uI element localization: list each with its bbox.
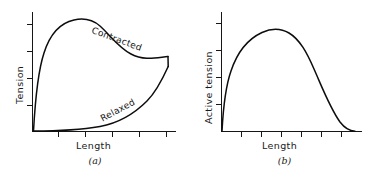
figure-root: Tension Length (a) Contracted Relaxed	[0, 0, 379, 176]
panel-a-x-ticks	[59, 132, 167, 138]
panel-a-y-ticks	[27, 25, 33, 106]
panel-b-caption: (b)	[190, 155, 379, 166]
panel-a-relaxed-curve	[34, 67, 169, 132]
panel-b-y-ticks	[216, 24, 222, 105]
panel-a-x-axis-label: Length	[76, 140, 111, 151]
panel-b: Active tension Length (b)	[190, 0, 379, 176]
panel-a-y-axis-label: Tension	[14, 66, 25, 104]
panel-b-y-axis-label: Active tension	[203, 51, 214, 124]
panel-a-caption: (a)	[0, 155, 190, 166]
panel-a: Tension Length (a) Contracted Relaxed	[0, 0, 190, 176]
panel-b-active-tension-curve	[222, 29, 355, 131]
panel-b-x-ticks	[242, 132, 342, 138]
panel-b-x-axis-label: Length	[262, 140, 297, 151]
